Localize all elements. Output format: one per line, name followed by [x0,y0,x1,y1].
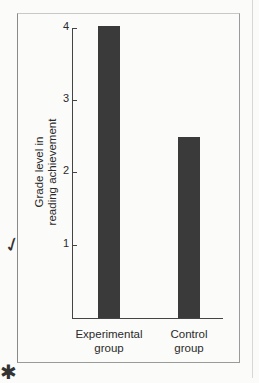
category-label-line: Experimental [68,327,150,341]
y-tick-4 [72,28,77,29]
y-axis [72,28,73,318]
category-label-line: group [160,341,218,355]
category-label-line: group [68,341,150,355]
bar-control-group [178,137,200,318]
y-tick-3 [72,100,77,101]
category-label-experimental: Experimental group [68,327,150,355]
handwritten-star-mark: ✱ [0,360,17,383]
category-label-line: Control [160,327,218,341]
category-label-control: Control group [160,327,218,355]
y-axis-label-line2: reading achievement [46,87,59,257]
y-axis-label-line1: Grade level in [33,87,46,257]
page-edge [252,0,253,378]
y-tick-label-4: 4 [57,20,69,32]
bar-experimental-group [98,26,120,318]
y-tick-2 [72,172,77,173]
y-axis-label: Grade level in reading achievement [33,87,59,257]
x-axis [72,318,223,319]
y-tick-1 [72,245,77,246]
